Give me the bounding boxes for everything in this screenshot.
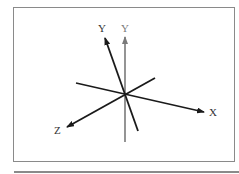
axes-diagram: Y Y X Z [0,0,239,174]
rotated-y-axis [105,38,138,131]
label-x: X [209,106,217,118]
z-axis [67,78,155,127]
label-y-original: Y [121,22,129,34]
label-y-rotated: Y [98,22,106,34]
label-z: Z [54,124,61,136]
